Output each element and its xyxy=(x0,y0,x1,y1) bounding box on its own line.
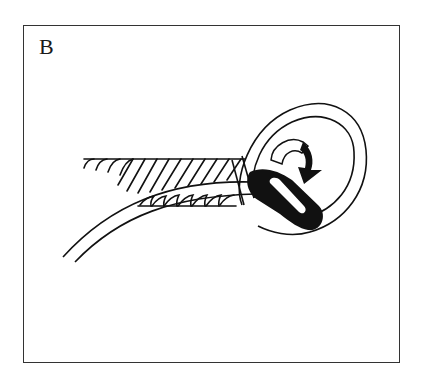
working-end xyxy=(247,169,323,230)
rope-knot-illustration xyxy=(0,0,425,377)
tail-strand xyxy=(63,182,268,262)
